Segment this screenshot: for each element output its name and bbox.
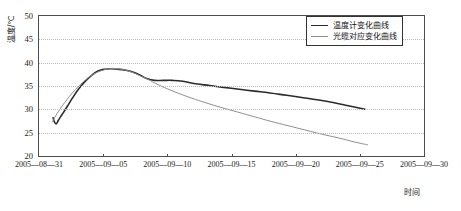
x-axis-tick-label: 2005—09—05 xyxy=(79,161,127,169)
x-axis-tick-mark xyxy=(167,154,168,157)
x-axis-tick-mark xyxy=(296,154,297,157)
y-axis-tick-label: 30 xyxy=(5,105,33,114)
legend-item-1: 光缆对应变化曲线 xyxy=(311,31,397,42)
legend-swatch-optical-cable xyxy=(311,36,328,37)
x-axis-tick-label: 2005—08—31 xyxy=(15,161,63,169)
temperature-time-chart: 温度/℃ 时间 50454035302520 2005—08—312005—09… xyxy=(0,0,461,211)
legend-label-optical-cable: 光缆对应变化曲线 xyxy=(333,32,397,41)
series-line-thermometer xyxy=(53,69,365,124)
x-axis-tick-mark xyxy=(232,154,233,157)
x-axis-tick-label: 2005—09—30 xyxy=(400,161,448,169)
x-axis-tick-label: 2005—09—10 xyxy=(143,161,191,169)
x-axis-tick-mark xyxy=(360,154,361,157)
y-axis-tick-label: 45 xyxy=(5,35,33,44)
y-axis-tick-label: 35 xyxy=(5,82,33,91)
x-axis-tick-label: 2005—09—25 xyxy=(336,161,384,169)
x-axis-tick-label: 2005—09—15 xyxy=(208,161,256,169)
y-axis-tick-label: 40 xyxy=(5,59,33,68)
legend-label-thermometer: 温度计变化曲线 xyxy=(333,21,389,30)
y-axis-tick-label: 25 xyxy=(5,129,33,138)
legend: 温度计变化曲线 光缆对应变化曲线 xyxy=(306,16,403,46)
gridline xyxy=(39,63,424,64)
y-axis-tick-label: 50 xyxy=(5,12,33,21)
gridline xyxy=(39,109,424,110)
x-axis-tick-mark xyxy=(103,154,104,157)
legend-swatch-thermometer xyxy=(311,25,328,26)
x-axis-tick-label: 2005—09—20 xyxy=(272,161,320,169)
gridline xyxy=(39,133,424,134)
gridline xyxy=(39,86,424,87)
legend-item-0: 温度计变化曲线 xyxy=(311,20,397,31)
